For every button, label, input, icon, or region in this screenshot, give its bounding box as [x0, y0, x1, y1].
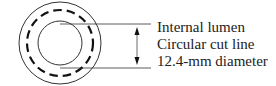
outer-wall-circle	[19, 2, 101, 84]
internal-lumen-circle	[38, 21, 82, 65]
diameter-label: 12.4-mm diameter	[157, 54, 268, 69]
cut-line-label: Circular cut line	[157, 37, 254, 52]
diameter-arrow-icon	[135, 27, 140, 65]
circular-cut-line	[27, 10, 93, 76]
internal-lumen-label: Internal lumen	[157, 20, 245, 35]
